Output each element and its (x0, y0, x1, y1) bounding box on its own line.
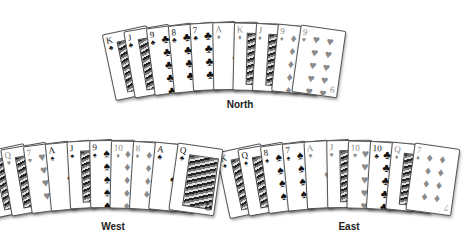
heart-icon: ♥ (329, 152, 333, 159)
diamond-icon: ♦ (258, 34, 262, 41)
diamond-icon: ♦ (216, 34, 220, 41)
card-corner-index: A♠ (48, 146, 56, 162)
diamond-icon: ♦ (116, 152, 120, 159)
card-corner-index: J♦ (258, 26, 263, 41)
card-corner-index: A♣ (157, 145, 165, 161)
card-rank-bottom: 9 (329, 84, 335, 95)
heart-icon: ♥ (353, 152, 357, 159)
card-corner-index: 7♠ (285, 147, 291, 162)
card-corner-index: K♣ (105, 36, 114, 52)
card-corner-index: 10♣ (372, 144, 382, 160)
spade-icon: ♠ (244, 159, 249, 167)
heart-icon: ♥ (27, 157, 32, 164)
spade-icon: ♠ (286, 155, 290, 162)
diamond-icon: ♦ (395, 153, 399, 160)
card-corner-index: 8♣ (171, 29, 177, 44)
east-label: East (338, 221, 359, 232)
card-corner-index: 7♣ (193, 27, 198, 42)
card-corner-index: Q♠ (241, 151, 250, 167)
spade-icon: ♠ (222, 162, 227, 170)
card-queen-of-clubs[interactable]: Q♣Q (168, 143, 223, 217)
card-corner-index: Q♦ (394, 145, 402, 161)
card-corner-index: J♣ (127, 33, 134, 49)
card-corner-index: 10♦ (113, 144, 122, 159)
club-icon: ♣ (193, 35, 198, 42)
card-corner-index: Q♣ (178, 146, 187, 162)
card-corner-index: 7♦ (415, 146, 422, 161)
card-9-of-hearts[interactable]: 9♥♥ ♥♥ ♥♥ ♥♥ ♥♥ ♥9 (291, 25, 346, 99)
spade-icon: ♠ (264, 157, 269, 164)
diamond-icon: ♦ (238, 34, 242, 41)
card-corner-index: 8♦ (135, 144, 140, 159)
club-icon: ♣ (157, 153, 162, 160)
card-corner-index: 9♣ (149, 31, 156, 46)
card-rank-bottom: 7 (443, 202, 449, 213)
card-corner-index: J♥ (329, 144, 333, 159)
diamond-icon: ♦ (136, 152, 140, 159)
spade-icon: ♠ (50, 154, 54, 161)
club-icon: ♣ (179, 154, 185, 162)
card-corner-index: J♠ (70, 145, 75, 160)
club-icon: ♣ (128, 41, 134, 49)
club-icon: ♣ (374, 152, 379, 159)
card-corner-index: 9♥ (301, 28, 308, 43)
card-corner-index: 9♠ (92, 144, 97, 159)
club-icon: ♣ (150, 39, 155, 47)
card-corner-index: 9♦ (280, 27, 286, 42)
spade-icon: ♠ (92, 152, 96, 159)
card-corner-index: 8♠ (263, 149, 269, 164)
spade-icon: ♠ (70, 153, 74, 160)
north-label: North (227, 99, 254, 110)
club-icon: ♣ (172, 36, 177, 43)
card-pips: ♥ ♥♥ ♥♥ ♥♥ ♥♥ ♥ (306, 33, 344, 93)
card-corner-index: A♥ (307, 144, 314, 159)
card-corner-index: 7♥ (26, 149, 32, 164)
card-pips: ♦ ♦♦ ♦♦ ♦♦ ♦ (420, 151, 458, 211)
face-card-art (182, 154, 219, 210)
card-corner-index: A♦ (215, 26, 222, 41)
card-corner-index: 10♥ (350, 144, 359, 159)
card-corner-index: Q♥ (4, 151, 13, 167)
west-label: West (101, 221, 125, 232)
diamond-icon: ♦ (415, 154, 420, 161)
heart-icon: ♥ (7, 159, 12, 167)
card-rank-bottom: Q (204, 202, 212, 213)
diamond-icon: ♦ (280, 35, 284, 42)
card-corner-index: K♦ (236, 26, 243, 41)
heart-icon: ♥ (308, 152, 313, 159)
card-7-of-diamonds[interactable]: 7♦♦ ♦♦ ♦♦ ♦♦ ♦7 (405, 143, 460, 217)
club-icon: ♣ (108, 44, 114, 52)
heart-icon: ♥ (301, 36, 306, 44)
